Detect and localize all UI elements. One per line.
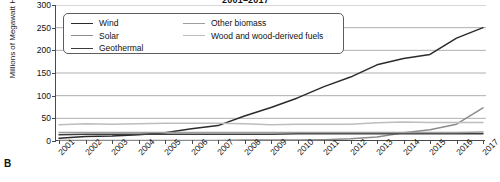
x-tick-mark [351, 140, 352, 144]
legend-column-right: Other biomassWood and wood-derived fuels [183, 17, 323, 42]
x-tick-mark [377, 140, 378, 144]
y-tick-mark [52, 118, 56, 119]
legend-entry: Geothermal [71, 42, 143, 54]
y-axis-title: Millions of Megawatt Hours [8, 0, 17, 101]
legend-swatch [71, 23, 93, 24]
legend-label: Wind [99, 18, 118, 28]
x-tick-mark [165, 140, 166, 144]
x-tick-mark [59, 140, 60, 144]
legend-label: Other biomass [211, 18, 266, 28]
x-tick-mark [324, 140, 325, 144]
legend-entry: Wind [71, 17, 143, 29]
y-tick-label: 200 [37, 45, 51, 55]
series-line [59, 134, 483, 135]
legend-label: Wood and wood-derived fuels [211, 31, 323, 41]
legend-swatch [71, 48, 93, 49]
panel-letter: B [4, 158, 11, 169]
x-tick-mark [86, 140, 87, 144]
y-tick-label: 300 [37, 0, 51, 10]
y-tick-mark [52, 50, 56, 51]
y-tick-label: 50 [42, 113, 51, 123]
legend-column-left: WindSolarGeothermal [71, 17, 143, 55]
x-tick-mark [483, 140, 484, 144]
y-tick-mark [52, 5, 56, 6]
y-tick-mark [52, 73, 56, 74]
x-tick-mark [457, 140, 458, 144]
x-tick-mark [112, 140, 113, 144]
y-tick-label: 0 [46, 136, 51, 146]
x-tick-mark [192, 140, 193, 144]
x-tick-mark [298, 140, 299, 144]
legend-entry: Wood and wood-derived fuels [183, 30, 323, 42]
legend-swatch [183, 35, 205, 36]
legend-label: Geothermal [99, 43, 143, 53]
legend-swatch [71, 35, 93, 36]
y-tick-mark [52, 141, 56, 142]
legend-entry: Solar [71, 30, 143, 42]
series-line [59, 122, 483, 125]
legend-swatch [183, 23, 205, 24]
x-tick-mark [430, 140, 431, 144]
legend-entry: Other biomass [183, 17, 323, 29]
y-tick-mark [52, 96, 56, 97]
chart-legend: WindSolarGeothermal Other biomassWood an… [63, 13, 344, 54]
y-tick-mark [52, 28, 56, 29]
x-tick-mark [404, 140, 405, 144]
x-tick-mark [218, 140, 219, 144]
y-tick-label: 100 [37, 91, 51, 101]
x-tick-mark [245, 140, 246, 144]
x-tick-mark [271, 140, 272, 144]
x-tick-mark [139, 140, 140, 144]
y-tick-label: 150 [37, 68, 51, 78]
legend-label: Solar [99, 31, 119, 41]
y-tick-label: 250 [37, 23, 51, 33]
